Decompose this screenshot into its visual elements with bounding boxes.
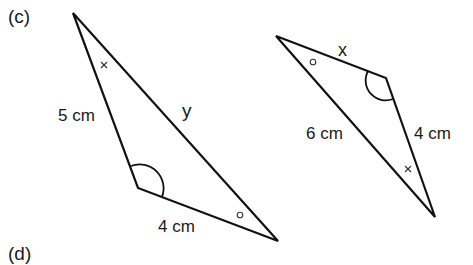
right-triangle-side-left-label: 6 cm xyxy=(306,124,343,144)
right-triangle-cross-mark xyxy=(405,166,411,172)
right-triangle-side-x-label: x xyxy=(338,40,347,61)
part-label: (c) xyxy=(8,6,30,28)
next-part-label: (d) xyxy=(8,243,31,265)
left-triangle-circle-mark xyxy=(237,212,243,218)
left-triangle-cross-mark xyxy=(101,62,107,68)
left-triangle-side-left-label: 5 cm xyxy=(58,106,95,126)
left-triangle-side-bottom-label: 4 cm xyxy=(158,217,195,237)
left-triangle xyxy=(73,13,278,241)
left-triangle-side-y-label: y xyxy=(182,100,192,122)
right-triangle xyxy=(276,36,435,217)
right-triangle-side-right-label: 4 cm xyxy=(414,124,451,144)
right-triangle-circle-mark xyxy=(310,59,316,65)
